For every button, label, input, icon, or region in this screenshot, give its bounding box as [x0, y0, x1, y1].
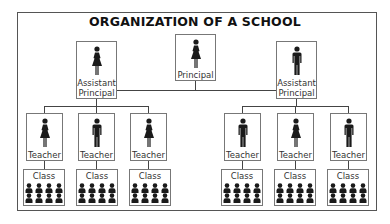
student-icon: [223, 193, 231, 203]
student-icon: [151, 193, 159, 203]
student-icon: [108, 193, 116, 203]
student-icon: [233, 183, 241, 193]
connector: [116, 90, 276, 91]
teacher-label: Teacher: [331, 150, 366, 160]
teacher-box: Teacher: [277, 113, 314, 161]
student-icon: [296, 183, 304, 193]
teacher-label: Teacher: [278, 150, 313, 160]
student-icon: [88, 193, 96, 203]
student-icon: [276, 183, 284, 193]
class-label: Class: [77, 171, 117, 181]
student-icon: [253, 183, 261, 193]
students-group: [329, 183, 367, 203]
class-label: Class: [275, 171, 315, 181]
connector: [296, 99, 297, 106]
assistant-principal-box-right: Assistant Principal: [276, 41, 317, 99]
student-icon: [78, 183, 86, 193]
student-icon: [306, 193, 314, 203]
assistant-principal-label: Assistant Principal: [77, 78, 116, 98]
student-icon: [141, 193, 149, 203]
student-icon: [25, 183, 33, 193]
class-box: Class: [76, 169, 118, 206]
student-icon: [78, 193, 86, 203]
diagram-title: ORGANIZATION OF A SCHOOL: [0, 14, 390, 29]
male-figure-icon: [91, 118, 103, 148]
student-icon: [88, 183, 96, 193]
connector: [148, 161, 149, 169]
student-icon: [359, 183, 367, 193]
student-icon: [329, 193, 337, 203]
student-icon: [243, 193, 251, 203]
label-line: Principal: [77, 88, 116, 98]
student-icon: [286, 183, 294, 193]
class-label: Class: [24, 171, 64, 181]
female-figure-icon: [190, 39, 202, 69]
female-figure-icon: [91, 46, 103, 76]
label-line: Principal: [277, 88, 316, 98]
student-icon: [161, 193, 169, 203]
class-box: Class: [274, 169, 316, 206]
student-icon: [35, 193, 43, 203]
connector: [96, 99, 97, 106]
male-figure-icon: [291, 46, 303, 76]
student-icon: [151, 183, 159, 193]
teacher-box: Teacher: [130, 113, 167, 161]
connector: [242, 106, 243, 113]
class-label: Class: [130, 171, 170, 181]
class-box: Class: [221, 169, 263, 206]
female-figure-icon: [39, 118, 51, 148]
teacher-label: Teacher: [131, 150, 166, 160]
connector: [96, 106, 97, 113]
class-box: Class: [23, 169, 65, 206]
male-figure-icon: [343, 118, 355, 148]
assistant-principal-label: Assistant Principal: [277, 78, 316, 98]
connector: [148, 106, 149, 113]
teacher-box: Teacher: [78, 113, 115, 161]
student-icon: [306, 183, 314, 193]
students-group: [131, 183, 169, 203]
student-icon: [286, 193, 294, 203]
label-line: Assistant: [77, 78, 116, 88]
teacher-label: Teacher: [79, 150, 114, 160]
student-icon: [349, 183, 357, 193]
student-icon: [243, 183, 251, 193]
teacher-box: Teacher: [330, 113, 367, 161]
female-figure-icon: [143, 118, 155, 148]
student-icon: [296, 193, 304, 203]
male-figure-icon: [237, 118, 249, 148]
class-box: Class: [327, 169, 369, 206]
teacher-label: Teacher: [225, 150, 260, 160]
student-icon: [55, 183, 63, 193]
student-icon: [35, 183, 43, 193]
connector: [242, 161, 243, 169]
student-icon: [98, 183, 106, 193]
assistant-principal-box-left: Assistant Principal: [76, 41, 117, 99]
label-line: Assistant: [277, 78, 316, 88]
students-group: [78, 183, 116, 203]
students-group: [223, 183, 261, 203]
female-figure-icon: [290, 118, 302, 148]
student-icon: [55, 193, 63, 203]
student-icon: [98, 193, 106, 203]
students-group: [25, 183, 63, 203]
student-icon: [253, 193, 261, 203]
student-icon: [161, 183, 169, 193]
student-icon: [223, 183, 231, 193]
connector: [44, 161, 45, 169]
teacher-box: Teacher: [26, 113, 63, 161]
student-icon: [349, 193, 357, 203]
student-icon: [339, 183, 347, 193]
connector: [295, 161, 296, 169]
teacher-label: Teacher: [27, 150, 62, 160]
student-icon: [141, 183, 149, 193]
student-icon: [276, 193, 284, 203]
connector: [195, 81, 196, 91]
connector: [96, 161, 97, 169]
connector: [295, 106, 296, 113]
student-icon: [131, 193, 139, 203]
principal-box: Principal: [175, 34, 216, 81]
student-icon: [131, 183, 139, 193]
connector: [44, 106, 45, 113]
class-box: Class: [129, 169, 171, 206]
class-label: Class: [222, 171, 262, 181]
